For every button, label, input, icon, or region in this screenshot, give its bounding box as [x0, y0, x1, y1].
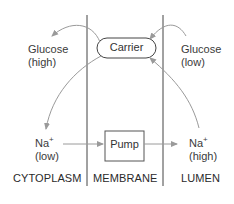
- na-low-charge: +: [49, 135, 54, 144]
- na-low-level: (low): [35, 150, 59, 163]
- glucose-high-level: (high): [28, 56, 68, 69]
- glucose-high-label: Glucose (high): [28, 43, 68, 69]
- na-high-label: Na+ (high): [189, 133, 217, 163]
- region-lumen: LUMEN: [181, 172, 220, 184]
- region-membrane: MEMBRANE: [93, 172, 157, 184]
- carrier-label: Carrier: [97, 41, 156, 53]
- na-high-level: (high): [189, 150, 217, 163]
- arrow-glucose-low-to-carrier: [150, 25, 186, 39]
- na-high-name: Na: [189, 137, 203, 149]
- arrow-carrier-to-glucose-high: [52, 25, 100, 42]
- glucose-high-name: Glucose: [28, 43, 68, 56]
- glucose-low-level: (low): [181, 56, 221, 69]
- na-low-name: Na: [35, 137, 49, 149]
- glucose-low-label: Glucose (low): [181, 43, 221, 69]
- na-low-label: Na+ (low): [35, 133, 59, 163]
- transport-diagram: Carrier Pump Glucose (high) Glucose (low…: [0, 0, 234, 204]
- glucose-low-name: Glucose: [181, 43, 221, 56]
- region-cytoplasm: CYTOPLASM: [13, 172, 82, 184]
- pump-label: Pump: [105, 138, 144, 150]
- na-high-charge: +: [203, 135, 208, 144]
